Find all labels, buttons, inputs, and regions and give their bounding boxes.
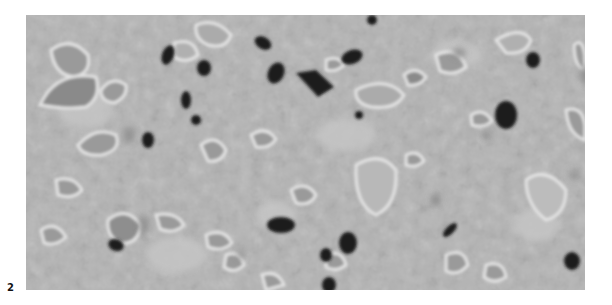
micrograph-image — [26, 15, 585, 290]
micrograph-texture — [26, 15, 585, 290]
figure-panel: 2 — [0, 0, 612, 305]
panel-label: 2 — [7, 282, 14, 294]
